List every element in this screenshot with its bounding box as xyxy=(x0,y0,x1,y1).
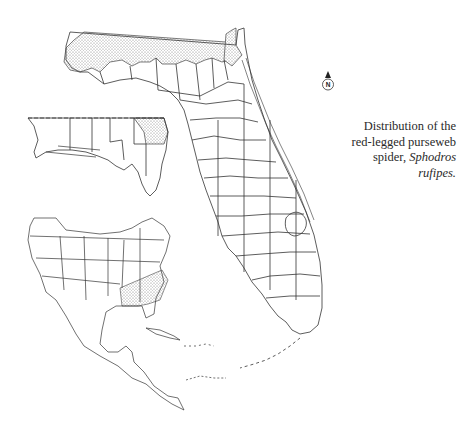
distribution-map xyxy=(0,0,465,433)
panhandle-inset-map xyxy=(28,118,168,196)
north-america-inset-map xyxy=(28,218,226,410)
species-genus: Sphodros xyxy=(409,150,456,164)
figure-caption: Distribution of the red-legged purseweb … xyxy=(330,119,456,181)
svg-text:N: N xyxy=(326,81,331,88)
florida-main-map xyxy=(64,28,322,368)
caption-line-1: Distribution of the xyxy=(330,119,456,135)
caption-line-4: rufipes. xyxy=(330,166,456,182)
south-america-coast xyxy=(186,376,226,380)
caption-line-2: red-legged purseweb xyxy=(330,135,456,151)
florida-outline xyxy=(66,28,322,334)
species-epithet: rufipes. xyxy=(418,166,456,180)
caribbean-islands xyxy=(184,344,214,346)
florida-keys xyxy=(240,338,300,368)
cuba xyxy=(146,328,180,340)
shaded-northeast-counties xyxy=(224,28,242,66)
caption-line-3: spider, Sphodros xyxy=(330,150,456,166)
north-america-outline xyxy=(28,218,184,410)
panhandle-inset-shaded xyxy=(134,118,168,144)
north-arrow-icon: N xyxy=(321,70,335,92)
